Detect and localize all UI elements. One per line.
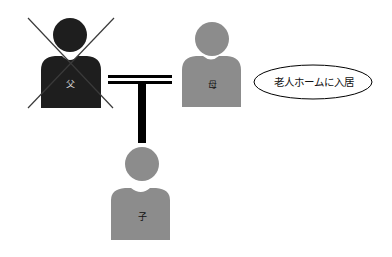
child-figure: [111, 147, 170, 240]
father-head: [53, 18, 87, 52]
descent-line: [138, 84, 146, 143]
family-diagram: [0, 0, 392, 257]
mother-head: [195, 22, 229, 56]
note-text: 老人ホームに入居: [258, 76, 370, 88]
marriage-line: [108, 75, 172, 84]
child-head: [125, 147, 159, 181]
child-label: 子: [134, 212, 150, 222]
mother-figure: [182, 22, 241, 107]
father-label: 父: [62, 79, 78, 89]
mother-label: 母: [204, 80, 220, 90]
